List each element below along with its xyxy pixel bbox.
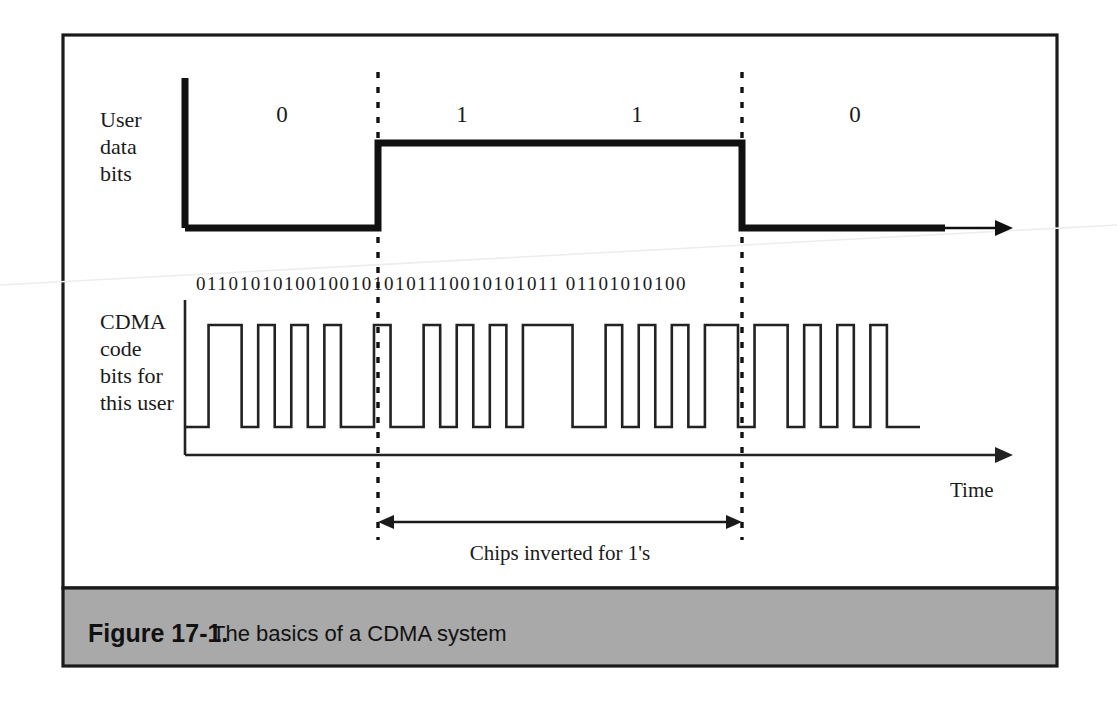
user-data-bit-label: 0 <box>849 102 861 127</box>
cdma-label-line-3: this user <box>100 390 175 415</box>
user-data-label-line-2: bits <box>100 161 132 186</box>
caption-figure-number: Figure 17-1. <box>88 619 228 647</box>
user-data-bit-label: 1 <box>631 102 643 127</box>
user-data-bit-label: 1 <box>456 102 468 127</box>
time-axis-label: Time <box>950 478 994 502</box>
cdma-label-line-1: code <box>100 336 142 361</box>
cdma-label-line-2: bits for <box>100 363 164 388</box>
cdma-figure-svg: User data bits CDMA code bits for this u… <box>0 0 1117 713</box>
user-data-bit-label: 0 <box>276 102 288 127</box>
figure-frame <box>63 35 1057 588</box>
annotation-label: Chips inverted for 1's <box>470 541 651 565</box>
cdma-chip-string: 011010101001001010101110010101011 011010… <box>196 273 687 294</box>
cdma-label-line-0: CDMA <box>100 309 166 334</box>
caption-text: The basics of a CDMA system <box>212 621 507 646</box>
user-data-label-line-0: User <box>100 107 142 132</box>
user-data-label-line-1: data <box>100 134 137 159</box>
figure-container: User data bits CDMA code bits for this u… <box>0 0 1117 713</box>
